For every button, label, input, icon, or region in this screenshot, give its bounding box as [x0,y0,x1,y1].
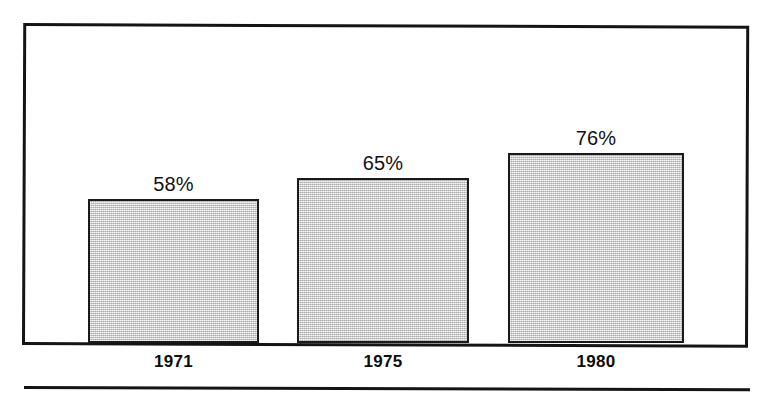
bar-1980 [508,153,684,343]
bar-value-1975: 65% [297,152,469,175]
bar-1975 [297,178,469,343]
bar-category-1975: 1975 [297,352,469,372]
plot-area: 58% 1971 65% 1975 76% 1980 [0,0,765,406]
bar-value-1971: 58% [88,173,259,196]
bar-chart-figure: 58% 1971 65% 1975 76% 1980 [0,0,765,406]
bar-category-1980: 1980 [508,352,684,372]
bar-1971 [88,199,259,343]
bar-category-1971: 1971 [88,352,259,372]
bar-value-1980: 76% [508,127,684,150]
